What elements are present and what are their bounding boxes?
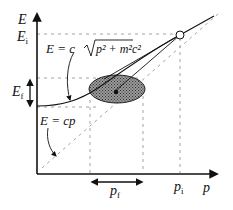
dispersion-formula: E = c p² + m²c² xyxy=(45,40,141,56)
E-final-label: Ef xyxy=(11,84,24,101)
p-final-label: pf xyxy=(109,183,120,200)
light-line-formula: E = cp xyxy=(39,113,76,128)
E-initial-label: Ei xyxy=(16,29,29,46)
line-pointer-arrow xyxy=(47,128,56,156)
energy-momentum-diagram: E p Ei Ef pi pf E = c p² + m²c² E = cp xyxy=(0,0,233,210)
y-axis-label: E xyxy=(17,12,27,27)
svg-text:p² + m²c²: p² + m²c² xyxy=(95,42,141,56)
svg-text:E = c: E = c xyxy=(45,41,75,56)
curve-pointer-arrow xyxy=(67,52,74,100)
initial-state-point xyxy=(176,31,184,39)
x-axis-label: p xyxy=(202,180,210,195)
p-initial-label: pi xyxy=(173,179,184,196)
